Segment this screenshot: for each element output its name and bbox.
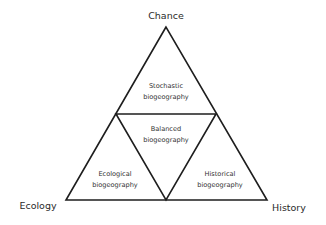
region-stochastic: Stochastic biogeography bbox=[143, 82, 189, 101]
region-balanced-line1: Balanced bbox=[151, 125, 181, 133]
biogeography-triangle-diagram: Chance Ecology History Stochastic biogeo… bbox=[0, 0, 326, 225]
region-balanced: Balanced biogeography bbox=[143, 125, 189, 144]
region-historical-line2: biogeography bbox=[197, 181, 243, 189]
vertex-label-history: History bbox=[272, 202, 306, 213]
region-ecological-line2: biogeography bbox=[92, 181, 138, 189]
region-stochastic-line2: biogeography bbox=[143, 93, 189, 101]
region-balanced-line2: biogeography bbox=[143, 136, 189, 144]
vertex-label-ecology: Ecology bbox=[19, 200, 57, 211]
vertex-label-chance: Chance bbox=[148, 10, 184, 21]
region-historical: Historical biogeography bbox=[197, 170, 243, 189]
region-historical-line1: Historical bbox=[205, 170, 236, 178]
region-ecological-line1: Ecological bbox=[98, 170, 131, 178]
region-stochastic-line1: Stochastic bbox=[149, 82, 184, 90]
region-ecological: Ecological biogeography bbox=[92, 170, 138, 189]
